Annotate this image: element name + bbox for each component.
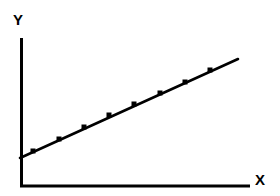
data-point-marker (132, 102, 137, 107)
trend-line (20, 59, 238, 158)
chart-canvas (0, 0, 280, 196)
data-point-marker (57, 137, 62, 142)
data-point-marker (183, 80, 188, 85)
data-point-marker (107, 113, 112, 118)
x-axis-label: X (255, 172, 265, 187)
data-point-marker (158, 91, 163, 96)
data-point-marker (31, 149, 36, 154)
axes-group (20, 38, 250, 187)
data-point-marker (82, 125, 87, 130)
y-axis-label: Y (13, 12, 23, 27)
data-series-linear-trend (20, 59, 238, 158)
chart-figure: Y X (0, 0, 280, 196)
data-point-marker (208, 68, 213, 73)
